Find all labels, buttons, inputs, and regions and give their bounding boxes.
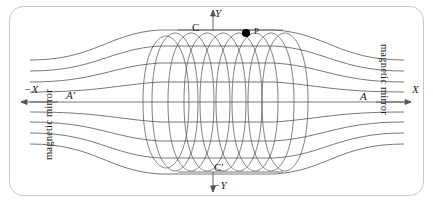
label-line-c: C bbox=[192, 22, 199, 33]
label-axis-positive-x: X bbox=[412, 84, 419, 95]
label-axis-negative-y: −Y bbox=[213, 180, 227, 191]
label-magnetic-mirror-right: magnetic mirror bbox=[379, 44, 390, 115]
particle-point-marker bbox=[242, 29, 250, 37]
label-axis-positive-y: Y bbox=[215, 8, 221, 19]
magnetic-mirror-figure: magnetic mirror magnetic mirror −X X Y −… bbox=[0, 0, 433, 204]
label-line-c-prime: C′ bbox=[214, 162, 224, 173]
label-point-a-prime: A′ bbox=[66, 90, 75, 101]
label-axis-negative-x: −X bbox=[24, 84, 38, 95]
label-particle-p: P bbox=[254, 27, 259, 36]
diagram-canvas bbox=[0, 0, 433, 204]
label-magnetic-mirror-left: magnetic mirror bbox=[44, 89, 55, 160]
label-point-a: A bbox=[360, 91, 367, 102]
